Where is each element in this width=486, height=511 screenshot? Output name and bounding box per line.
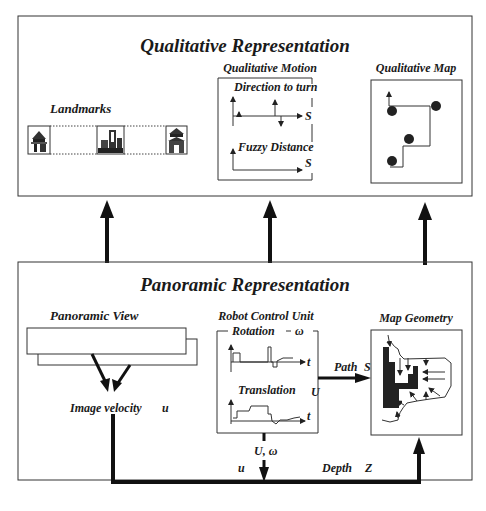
qualitative-representation-panel: Qualitative Representation Landmarks — [18, 16, 472, 196]
translation-label: Translation — [238, 383, 296, 397]
robot-control-unit-group: Robot Control Unit Rotation ω t Translat… — [217, 309, 321, 482]
path-arrow-group: Path S — [318, 360, 371, 383]
rotation-symbol: ω — [295, 324, 304, 338]
translation-axis-t: t — [307, 409, 311, 423]
panoramic-view-group: Panoramic View Image velocity u — [27, 308, 197, 415]
flow-u-label: u — [238, 461, 245, 475]
robot-control-unit-title: Robot Control Unit — [217, 309, 314, 323]
rotation-axis-t: t — [307, 355, 311, 369]
qualitative-map-route — [389, 92, 430, 167]
qualitative-map-group: Qualitative Map — [371, 61, 462, 183]
fuzzy-distance-label: Fuzzy Distance — [237, 140, 314, 154]
robot-control-frame — [217, 331, 318, 433]
translation-symbol: U — [311, 385, 321, 399]
path-label: Path — [334, 360, 358, 374]
qualitative-motion-title: Qualitative Motion — [223, 61, 317, 75]
qualitative-map-frame — [371, 80, 462, 183]
direction-to-turn-label: Direction to turn — [233, 80, 318, 94]
map-node — [387, 106, 397, 116]
architecture-diagram: Qualitative Representation Landmarks — [0, 0, 486, 511]
depth-symbol: Z — [364, 461, 373, 475]
map-node — [404, 134, 414, 144]
landmarks-label: Landmarks — [49, 101, 111, 116]
depth-arrowhead — [413, 437, 425, 454]
path-arrowhead — [355, 373, 371, 383]
map-geometry-group: Map Geometry — [371, 311, 462, 435]
depth-label: Depth — [321, 461, 352, 475]
panoramic-strip-front — [27, 328, 186, 354]
rotation-signal — [233, 347, 293, 367]
rotation-label: Rotation — [231, 324, 275, 338]
image-velocity-label: Image velocity — [69, 401, 142, 415]
upward-arrows — [100, 200, 432, 265]
landmarks-group: Landmarks — [28, 101, 187, 154]
map-node — [431, 101, 441, 111]
direction-axis-s: S — [305, 109, 312, 123]
panoramic-view-label: Panoramic View — [50, 308, 139, 323]
qualitative-panel-title: Qualitative Representation — [140, 35, 350, 56]
map-node — [387, 156, 397, 166]
city-buildings-landmark-icon — [97, 126, 124, 154]
map-geometry-title: Map Geometry — [378, 311, 453, 325]
panoramic-representation-panel: Panoramic Representation Panoramic View … — [18, 262, 472, 484]
distance-axis-s: S — [305, 156, 312, 170]
temple-landmark-icon — [166, 126, 187, 154]
image-velocity-symbol: u — [162, 401, 169, 415]
qualitative-map-title: Qualitative Map — [376, 61, 456, 75]
pagoda-landmark-icon — [28, 126, 50, 154]
panoramic-panel-title: Panoramic Representation — [139, 274, 350, 295]
control-output-label: U, ω — [254, 444, 278, 458]
path-symbol: S — [364, 360, 371, 374]
qualitative-motion-group: Qualitative Motion Direction to turn S F… — [218, 61, 318, 180]
